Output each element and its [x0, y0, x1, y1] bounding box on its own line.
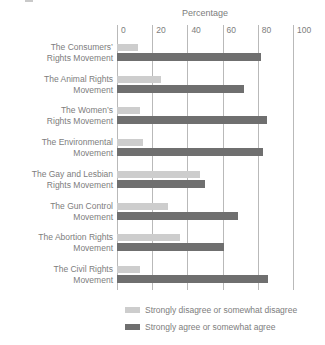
category-label: The Women’sRights Movement [0, 105, 113, 126]
x-axis-tick-label-40: 40 [191, 25, 200, 35]
category-label-line: Movement [0, 243, 113, 254]
category-label-line: Rights Movement [0, 180, 113, 191]
agree-bar [117, 243, 224, 251]
category-label-line: The Civil Rights [0, 264, 113, 275]
category-label-line: Rights Movement [0, 53, 113, 64]
gridline-80 [258, 25, 259, 290]
agree-bar [117, 53, 261, 61]
disagree-bar [117, 266, 140, 273]
disagree-bar [117, 234, 180, 241]
disagree-bar [117, 203, 168, 210]
agree-bar [117, 116, 267, 124]
legend-item-disagree: Strongly disagree or somewhat disagree [125, 305, 297, 315]
disagree-bar [117, 171, 200, 178]
category-label: The Animal RightsMovement [0, 74, 113, 95]
category-label: The Abortion RightsMovement [0, 232, 113, 253]
agree-bar [117, 275, 268, 283]
category-label-line: The Consumers’ [0, 42, 113, 53]
legend-item-agree: Strongly agree or somewhat agree [125, 322, 297, 332]
agree-bar [117, 212, 238, 220]
category-label: The Consumers’Rights Movement [0, 42, 113, 63]
disagree-bar [117, 139, 143, 146]
agree-bar [117, 85, 244, 93]
agree-bar [117, 148, 263, 156]
x-axis-tick-label-20: 20 [156, 25, 165, 35]
disagree-bar [117, 107, 140, 114]
category-label-line: Rights Movement [0, 116, 113, 127]
category-label-line: The Animal Rights [0, 74, 113, 85]
disagree-bar [117, 76, 161, 83]
category-label-line: The Abortion Rights [0, 232, 113, 243]
disagree-swatch [125, 307, 140, 313]
category-label-line: The Environmental [0, 137, 113, 148]
category-label: The Gun ControlMovement [0, 201, 113, 222]
legend: Strongly disagree or somewhat disagree S… [125, 305, 297, 339]
x-axis-tick-label-100: 100 [297, 25, 311, 35]
category-label-line: The Gun Control [0, 201, 113, 212]
agree-bar [117, 180, 205, 188]
x-axis-tick-label-80: 80 [262, 25, 271, 35]
legend-label-disagree: Strongly disagree or somewhat disagree [145, 305, 297, 315]
disagree-bar [117, 44, 138, 51]
agree-swatch [125, 324, 140, 330]
category-label: The EnvironmentalMovement [0, 137, 113, 158]
category-label-line: Movement [0, 148, 113, 159]
category-label-line: Movement [0, 85, 113, 96]
gridline-100 [293, 25, 294, 290]
category-label-line: The Women’s [0, 105, 113, 116]
category-label-line: Movement [0, 275, 113, 286]
legend-label-agree: Strongly agree or somewhat agree [145, 322, 275, 332]
category-label-line: The Gay and Lesbian [0, 169, 113, 180]
chart-title: Percentage [117, 8, 293, 18]
bar-chart-figure: Percentage 020406080100 The Consumers’Ri… [0, 0, 325, 345]
x-axis-tick-label-0: 0 [121, 25, 126, 35]
category-label: The Gay and LesbianRights Movement [0, 169, 113, 190]
cropped-text-artifact [25, 0, 33, 2]
category-label: The Civil RightsMovement [0, 264, 113, 285]
category-label-line: Movement [0, 212, 113, 223]
x-axis-tick-label-60: 60 [227, 25, 236, 35]
